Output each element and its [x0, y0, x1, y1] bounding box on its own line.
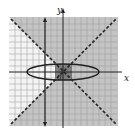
- x-axis-label: x: [124, 73, 129, 83]
- inequality-graph: y x 0: [0, 0, 135, 134]
- origin-label: 0: [57, 74, 62, 82]
- y-axis-label: y: [56, 5, 63, 15]
